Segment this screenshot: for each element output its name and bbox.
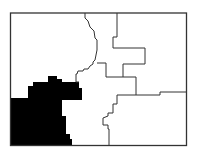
district-boundary-east [123, 77, 186, 95]
district-southwest-highlighted[interactable] [11, 76, 82, 145]
district-boundary-south [103, 95, 136, 145]
district-boundary-north [97, 13, 145, 77]
district-map [0, 0, 199, 155]
map-canvas [0, 0, 199, 155]
district-boundary-west [76, 13, 97, 82]
